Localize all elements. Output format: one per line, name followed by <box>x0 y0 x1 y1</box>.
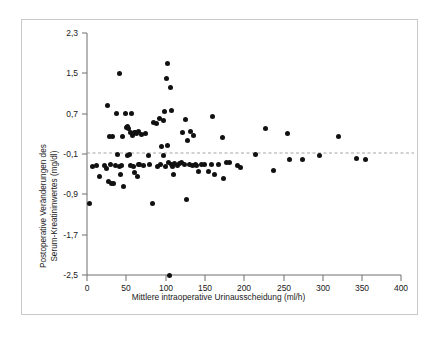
x-axis-ticks <box>87 275 401 281</box>
data-point <box>146 153 151 158</box>
data-point <box>161 118 166 123</box>
data-point <box>105 103 110 108</box>
data-point <box>212 172 217 177</box>
data-point <box>167 273 172 278</box>
data-point <box>164 76 169 81</box>
y-axis-title-line1: Postoperative Veränderungen des <box>38 144 49 268</box>
data-point <box>171 172 176 177</box>
data-point <box>94 163 99 168</box>
y-tick-label: 0,7 <box>52 109 78 119</box>
y-axis-title: Postoperative Veränderungen des Serum-Kr… <box>38 144 60 268</box>
data-point <box>118 172 123 177</box>
y-tick-label: 1,5 <box>52 68 78 78</box>
data-point <box>354 156 359 161</box>
data-point <box>111 181 116 186</box>
data-point <box>168 85 173 90</box>
data-point <box>141 163 146 168</box>
data-point <box>209 162 214 167</box>
data-point <box>158 162 163 167</box>
y-axis-ticks <box>82 33 87 275</box>
data-point <box>165 143 170 148</box>
y-axis-title-line2: Serum-Kreatininwertes (mg/dl) <box>49 144 60 268</box>
data-point <box>300 157 305 162</box>
data-point <box>317 153 322 158</box>
data-point <box>154 121 159 126</box>
data-point <box>169 108 174 113</box>
data-point <box>159 144 164 149</box>
y-tick-label: -2,5 <box>52 270 78 280</box>
data-point <box>150 201 155 206</box>
data-point <box>271 168 276 173</box>
x-axis-title: Mittlere intraoperative Urinausscheidung… <box>0 292 437 302</box>
data-point <box>196 169 201 174</box>
y-tick-label: 2,3 <box>52 28 78 38</box>
data-point <box>287 157 292 162</box>
data-point <box>221 176 226 181</box>
data-point <box>147 162 152 167</box>
figure-container: 2,3 1,5 0,7 -0,1 -0,9 -1,7 -2,5 0 50 100… <box>0 0 437 337</box>
data-point <box>363 157 368 162</box>
data-point <box>123 111 128 116</box>
data-point <box>127 152 132 157</box>
data-point <box>185 138 190 143</box>
scatter-plot: 2,3 1,5 0,7 -0,1 -0,9 -1,7 -2,5 0 50 100… <box>0 0 437 337</box>
data-point <box>135 174 140 179</box>
data-point <box>115 152 120 157</box>
data-point <box>220 135 225 140</box>
data-point <box>87 201 92 206</box>
